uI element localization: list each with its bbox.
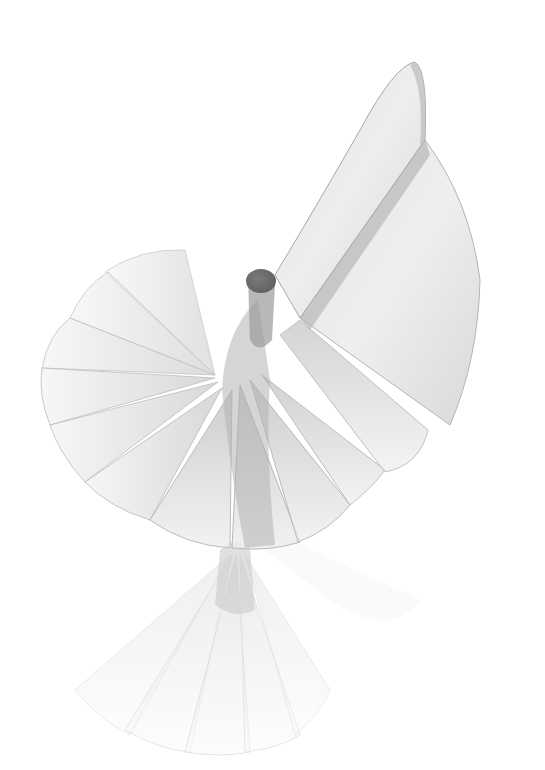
spiral-sculpture-photo: translucent white spiral fan sculpture [0, 0, 545, 770]
central-knob [246, 269, 276, 348]
bottom-fan [75, 540, 420, 755]
sculpture-illustration [0, 0, 545, 770]
top-wing [275, 62, 480, 425]
